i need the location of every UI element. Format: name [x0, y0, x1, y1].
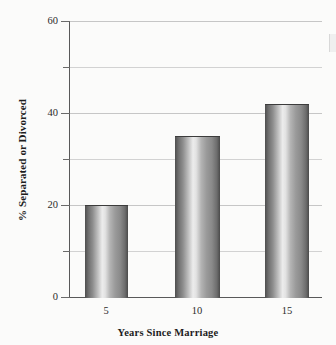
y-tick-40	[61, 113, 70, 114]
y-tick-20	[61, 205, 70, 206]
gridline-50	[69, 67, 322, 68]
y-tick-0	[61, 297, 70, 298]
y-tick-30	[63, 159, 70, 160]
bar-5-years	[85, 205, 128, 298]
y-tick-50	[63, 67, 70, 68]
x-tick-label-5: 5	[81, 306, 131, 317]
y-tick-60	[61, 21, 70, 22]
chart-screenshot: 60 40 20 0 5 10 15 % Separated or Divorc…	[0, 0, 336, 345]
y-tick-10	[63, 251, 70, 252]
x-tick-label-15: 15	[262, 306, 312, 317]
y-tick-label-0: 0	[18, 292, 58, 303]
y-tick-label-60: 60	[18, 16, 58, 27]
bar-15-years	[265, 104, 309, 298]
scan-edge-artifact	[329, 34, 336, 52]
gridline-60	[69, 21, 322, 22]
bar-chart-plot-area: 60 40 20 0 5 10 15	[0, 0, 336, 345]
y-axis-title: % Separated or Divorced	[16, 99, 28, 221]
x-axis-title: Years Since Marriage	[0, 327, 336, 338]
x-tick-label-10: 10	[172, 306, 222, 317]
bar-10-years	[175, 136, 220, 298]
